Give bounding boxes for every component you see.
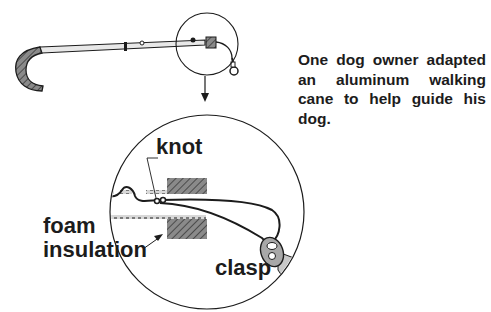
label-clasp: clasp <box>215 257 271 279</box>
foam-block-top <box>167 178 207 194</box>
cane-shaft <box>40 38 205 54</box>
arrow-down-icon <box>201 76 209 102</box>
clasp-small <box>230 58 238 75</box>
cord-small <box>216 42 232 58</box>
label-foam-line1: foam <box>43 214 147 238</box>
foam-insulation-small <box>206 37 216 48</box>
figure-caption: One dog owner adapted an aluminum walkin… <box>298 50 486 128</box>
label-foam-line2: insulation <box>43 238 147 262</box>
label-knot: knot <box>156 136 202 158</box>
cane-handle <box>16 47 43 91</box>
foam-block-bottom <box>167 219 207 239</box>
knot-icon <box>155 198 166 204</box>
label-foam-insulation: foam insulation <box>43 214 147 262</box>
